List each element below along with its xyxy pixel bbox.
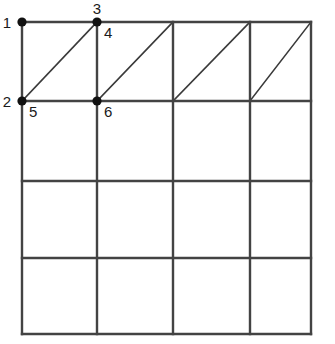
vertical-grid-lines-group xyxy=(22,22,311,334)
diagonal-line-cell-0 xyxy=(22,22,97,101)
mesh-diagram: 123456 xyxy=(0,0,335,344)
diagonal-line-cell-3 xyxy=(250,22,311,101)
node-label-6: 6 xyxy=(104,103,112,120)
node-label-5: 5 xyxy=(29,103,37,120)
horizontal-grid-lines-group xyxy=(22,22,311,334)
node-marker-2 xyxy=(17,96,26,105)
node-label-2: 2 xyxy=(3,93,11,110)
node-label-3: 3 xyxy=(93,0,101,17)
node-marker-3 xyxy=(92,17,101,26)
diagonal-line-cell-2 xyxy=(173,22,250,101)
node-label-1: 1 xyxy=(3,14,11,31)
node-label-4: 4 xyxy=(104,24,112,41)
node-marker-1 xyxy=(17,17,26,26)
mesh-diagram-canvas: 123456 xyxy=(0,0,335,344)
node-marker-6 xyxy=(92,96,101,105)
diagonal-lines-group xyxy=(22,22,311,101)
